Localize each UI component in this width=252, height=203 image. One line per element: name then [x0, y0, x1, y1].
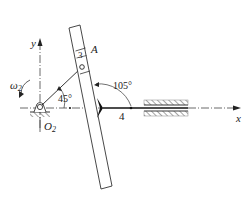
x-axis-label: x	[236, 113, 241, 124]
joint-4-label: 4	[119, 111, 125, 122]
pin-a-icon	[80, 65, 85, 70]
joint-4-icon	[97, 98, 103, 118]
x-axis-arrow-icon	[233, 106, 241, 111]
point-a-label: A	[91, 44, 98, 55]
link-3-label: 3	[78, 51, 83, 60]
y-axis-label: y	[31, 38, 36, 49]
omega-arrow-arc	[21, 80, 30, 94]
angle-45-label: 45°	[58, 94, 72, 104]
mechanism-diagram: y x A 3 4 45° 105° O2 ω2	[0, 0, 252, 203]
pivot-o2-label: O2	[44, 121, 56, 134]
pivot-o2-icon	[37, 104, 42, 109]
omega2-label: ω2	[10, 80, 22, 93]
angle-105-label: 105°	[113, 81, 132, 91]
y-axis-arrow-icon	[38, 38, 43, 46]
diagram-drawing	[0, 0, 252, 203]
